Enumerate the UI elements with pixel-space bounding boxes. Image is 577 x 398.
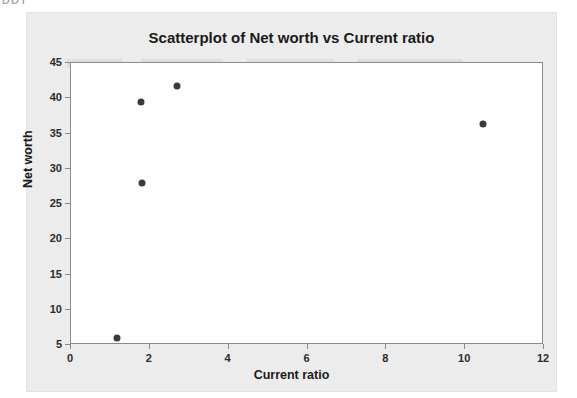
chart-title: Scatterplot of Net worth vs Current rati… xyxy=(27,29,556,46)
y-tick-label: 35 xyxy=(40,127,62,139)
x-tick-mark xyxy=(228,344,229,349)
x-tick-mark xyxy=(464,344,465,349)
scatter-point xyxy=(173,83,180,90)
chart-panel: Scatterplot of Net worth vs Current rati… xyxy=(26,12,557,392)
x-tick-label: 8 xyxy=(382,352,388,364)
y-tick-label: 5 xyxy=(40,338,62,350)
x-tick-mark xyxy=(543,344,544,349)
x-tick-mark xyxy=(385,344,386,349)
x-tick-mark xyxy=(149,344,150,349)
y-tick-label: 30 xyxy=(40,162,62,174)
y-tick-label: 15 xyxy=(40,268,62,280)
x-tick-label: 0 xyxy=(67,352,73,364)
x-tick-mark xyxy=(70,344,71,349)
x-tick-label: 12 xyxy=(537,352,549,364)
y-tick-label: 25 xyxy=(40,197,62,209)
x-axis-label: Current ratio xyxy=(27,368,556,382)
scatter-point xyxy=(479,120,486,127)
y-tick-label: 40 xyxy=(40,91,62,103)
x-tick-label: 4 xyxy=(225,352,231,364)
scatter-point xyxy=(114,334,121,341)
x-tick-label: 2 xyxy=(146,352,152,364)
scatter-point xyxy=(137,98,144,105)
plot-area xyxy=(70,62,543,344)
x-tick-mark xyxy=(307,344,308,349)
scatter-point xyxy=(138,179,145,186)
y-tick-label: 20 xyxy=(40,232,62,244)
y-tick-label: 45 xyxy=(40,56,62,68)
y-tick-label: 10 xyxy=(40,303,62,315)
x-tick-label: 6 xyxy=(303,352,309,364)
scan-artifact-text: DDT xyxy=(2,0,28,6)
x-tick-label: 10 xyxy=(458,352,470,364)
y-axis-label: Net worth xyxy=(21,130,35,188)
